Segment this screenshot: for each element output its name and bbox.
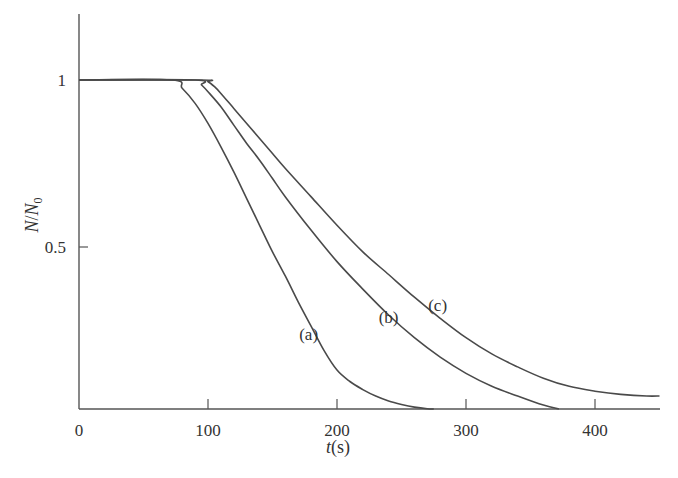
curve-label-a: (a) [299,325,318,344]
curve-c [79,80,660,396]
x-tick-label: 400 [582,421,608,440]
y-ticks: 0.51 [45,71,88,257]
x-axis-unit: (s) [331,437,350,458]
curves [79,79,660,409]
x-tick-label: 300 [453,421,479,440]
curve-label-c: (c) [428,296,447,315]
x-axis-label: t(s) [326,437,350,458]
y-tick-label: 0.5 [45,238,66,257]
x-ticks: 0100200300400 [75,399,608,440]
curve-a [79,79,434,409]
x-tick-label: 100 [195,421,221,440]
y-axis-label: N/N0 [22,197,45,233]
y-tick-label: 1 [58,71,67,90]
curve-b [79,80,559,409]
x-tick-label: 0 [75,421,84,440]
axes [79,14,660,409]
svg-text:N/N0: N/N0 [22,197,45,233]
curve-labels: (a)(b)(c) [299,296,447,344]
curve-label-b: (b) [379,308,399,327]
decay-chart: 0100200300400 0.51 (a)(b)(c) t(s) N/N0 [0,0,678,478]
